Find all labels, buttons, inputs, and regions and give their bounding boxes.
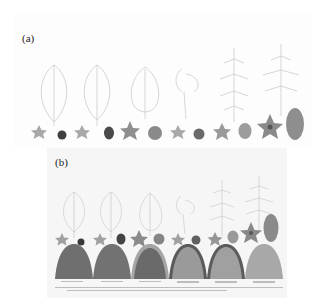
mound-section-row [55, 244, 283, 279]
caption-lines [55, 281, 283, 291]
flower-fruit-row [31, 108, 304, 140]
illustration-plate-b [47, 148, 287, 298]
flower-fruit-row [55, 214, 279, 247]
illustration-plate-a [14, 14, 312, 148]
leaf-row [63, 176, 273, 238]
figure-panel-a: (a) [14, 14, 312, 148]
figure-panel-b: (b) [47, 148, 287, 298]
leaf-row [41, 44, 299, 126]
